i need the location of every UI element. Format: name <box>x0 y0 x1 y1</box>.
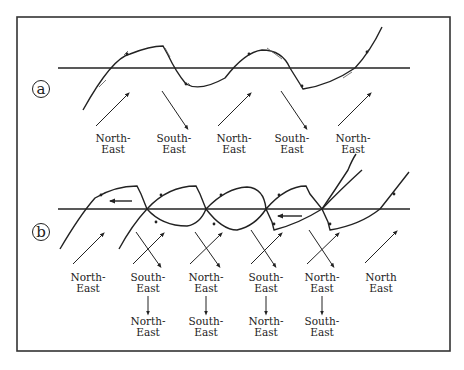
crossed-arrows <box>251 230 281 266</box>
wind-arrow-se <box>162 91 187 128</box>
result-label: East <box>194 326 218 338</box>
wind-label: East <box>162 143 186 155</box>
wind-arrow-se <box>281 91 306 128</box>
wind-label: East <box>76 282 100 294</box>
arrowhead-dot <box>160 194 163 197</box>
wind-arrow-ne <box>96 94 128 126</box>
diagram-canvas: a North- East South- East North- East So… <box>0 0 464 370</box>
wind-path-b-right-rise <box>322 154 356 209</box>
arrowhead-dot <box>100 194 103 197</box>
arrowhead-dot <box>155 221 158 224</box>
result-label: East <box>310 326 334 338</box>
arrowhead-dot <box>185 83 188 86</box>
wind-arrow-ne <box>338 94 370 126</box>
wind-label: East <box>341 143 365 155</box>
wind-label: East <box>280 143 304 155</box>
result-label: East <box>254 326 278 338</box>
arrowhead-dot <box>393 193 396 196</box>
crossed-arrows <box>133 232 163 266</box>
crossed-arrows <box>190 232 221 266</box>
wind-label: East <box>194 282 218 294</box>
arrowhead-dot <box>301 85 304 88</box>
wind-arrow-ne <box>73 234 103 264</box>
arrowhead-dot <box>213 223 216 226</box>
wind-arrow-ne <box>218 94 250 126</box>
panel-b-letter: b <box>36 223 46 241</box>
panel-b: b <box>33 154 411 338</box>
wind-label: East <box>310 282 334 294</box>
arrowhead-dot <box>248 53 251 56</box>
arrowhead-dot <box>273 223 276 226</box>
wind-label: East <box>222 143 246 155</box>
arrowhead-dot <box>220 194 223 197</box>
wind-path-b-left <box>60 186 147 249</box>
wind-arrow-ne <box>365 232 396 263</box>
wind-path-b-lower <box>147 172 409 230</box>
arrowhead-dot <box>278 194 281 197</box>
arrowhead-dot <box>366 51 369 54</box>
crossed-arrows <box>307 230 338 266</box>
wind-label: East <box>136 282 160 294</box>
wind-label: East <box>254 282 278 294</box>
wind-label: East <box>101 143 125 155</box>
arrowhead-dot <box>329 223 332 226</box>
result-label: East <box>136 326 160 338</box>
wind-label: East <box>369 282 393 294</box>
panel-a: a North- East South- East North- East So… <box>33 27 411 155</box>
panel-a-letter: a <box>37 80 46 98</box>
arrowhead-dot <box>126 53 129 56</box>
